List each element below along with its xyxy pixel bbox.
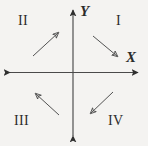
y-axis-label: Y xyxy=(80,4,89,19)
x-axis-label: X xyxy=(126,50,136,65)
quadrant-2-label: II xyxy=(18,14,28,28)
quadrant-3-arrow-icon xyxy=(36,94,59,115)
quadrant-1-label: I xyxy=(116,14,121,28)
quadrant-4-label: IV xyxy=(108,114,123,128)
quadrant-1-arrow-icon xyxy=(93,36,117,56)
quadrant-3-label: III xyxy=(14,114,29,128)
quadrant-2-arrow-icon xyxy=(33,33,58,56)
quadrant-diagram: I II III IV Y X xyxy=(0,0,148,146)
quadrant-4-arrow-icon xyxy=(91,92,113,113)
